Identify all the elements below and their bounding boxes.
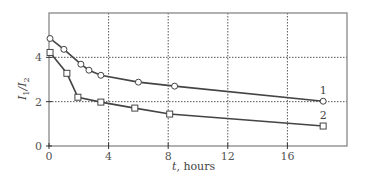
x-tick-label: 8 [165, 150, 172, 163]
square-marker [320, 123, 326, 129]
circle-marker [86, 67, 92, 73]
plot-frame [49, 13, 347, 146]
chart: 0481216024 12 t, hours I1/I2 [0, 0, 366, 179]
series-line-2 [50, 52, 323, 126]
series-label-1: 1 [320, 84, 327, 97]
circle-marker [78, 61, 84, 67]
square-marker [167, 111, 173, 117]
square-marker [98, 99, 104, 105]
square-marker [64, 70, 70, 76]
square-marker [47, 49, 53, 55]
grid-lines [49, 13, 347, 146]
y-axis-label: I1/I2 [16, 77, 31, 101]
square-marker [132, 105, 138, 111]
circle-marker [320, 98, 326, 104]
circle-marker [47, 35, 53, 41]
series-label-2: 2 [320, 109, 327, 122]
circle-marker [135, 79, 141, 85]
x-tick-label: 12 [221, 150, 235, 163]
y-tick-label: 2 [35, 96, 42, 109]
x-axis-label: t, hours [172, 160, 215, 173]
circle-marker [61, 46, 67, 52]
circle-marker [172, 83, 178, 89]
data-series: 12 [47, 35, 327, 129]
x-tick-label: 0 [46, 150, 53, 163]
x-tick-label: 4 [105, 150, 112, 163]
circle-marker [98, 72, 104, 78]
y-tick-label: 4 [35, 51, 42, 64]
x-tick-label: 16 [280, 150, 294, 163]
square-marker [75, 94, 81, 100]
y-tick-label: 0 [35, 140, 42, 153]
